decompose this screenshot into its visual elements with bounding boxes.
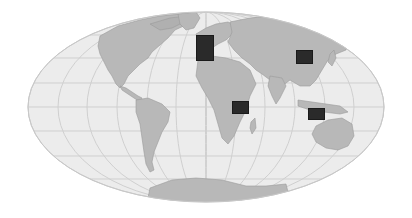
marker-europe[interactable] (196, 35, 214, 61)
map-canvas (0, 0, 412, 218)
world-map (0, 0, 412, 218)
marker-east-africa[interactable] (232, 101, 249, 114)
marker-east-asia[interactable] (296, 50, 313, 64)
marker-southeast-asia[interactable] (308, 108, 325, 120)
